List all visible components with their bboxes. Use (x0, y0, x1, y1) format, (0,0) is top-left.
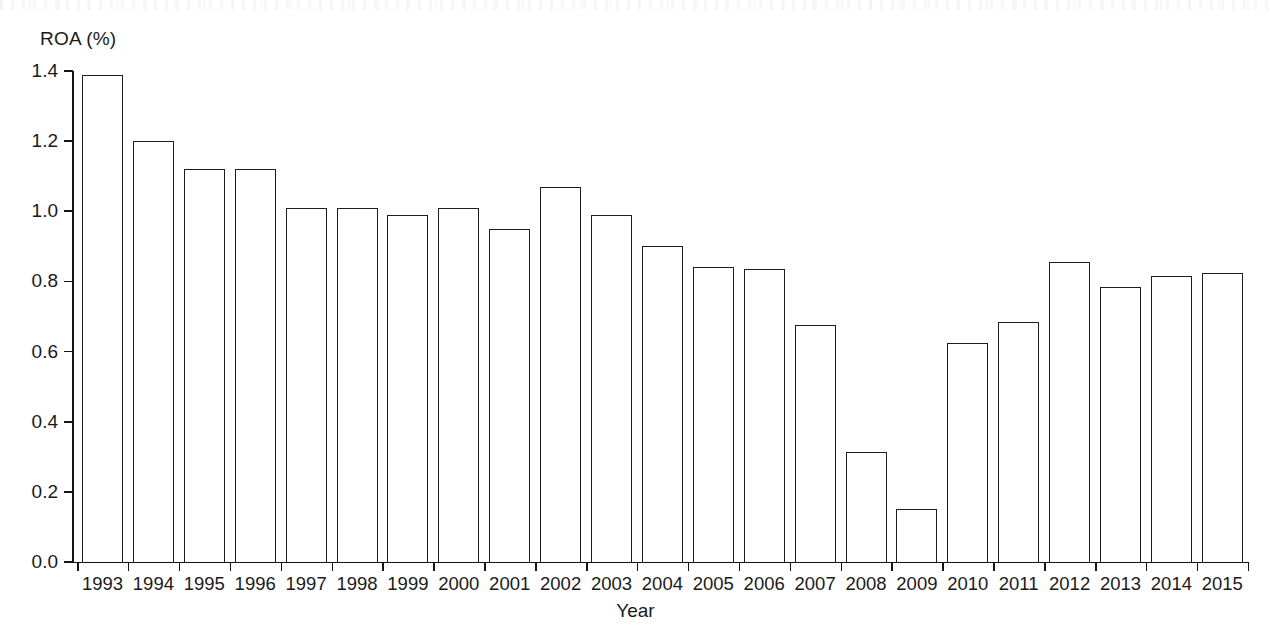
x-axis-tick-label: 2000 (438, 573, 479, 595)
x-axis-tick (230, 562, 232, 571)
x-axis-tick-label: 2013 (1100, 573, 1141, 595)
x-axis-tick (1044, 562, 1046, 571)
bar (896, 509, 937, 562)
x-axis-tick (993, 562, 995, 571)
x-axis-tick-label: 2004 (642, 573, 683, 595)
x-axis-tick (332, 562, 334, 571)
y-axis-tick-label: 0.8 (8, 270, 58, 292)
x-axis-title: Year (0, 600, 1271, 622)
x-axis-tick (535, 562, 537, 571)
x-axis-tick-label: 2011 (999, 573, 1039, 595)
y-axis-tick-label: 1.4 (8, 60, 58, 82)
bar (744, 269, 785, 562)
y-axis-tick (64, 351, 73, 353)
y-axis-tick-label: 1.2 (8, 130, 58, 152)
x-axis-tick (1197, 562, 1199, 571)
bar (489, 229, 530, 562)
x-axis-tick (1095, 562, 1097, 571)
x-axis-tick-label: 2003 (591, 573, 632, 595)
x-axis-tick-label: 2001 (489, 573, 530, 595)
y-axis-tick (64, 210, 73, 212)
y-axis-tick-label: 0.2 (8, 481, 58, 503)
x-axis-tick (281, 562, 283, 571)
x-axis-tick-label: 2008 (845, 573, 886, 595)
x-axis-tick (1248, 562, 1250, 571)
x-axis-tick-label: 2010 (947, 573, 988, 595)
y-axis-tick-label: 0.6 (8, 341, 58, 363)
x-axis-tick (382, 562, 384, 571)
x-axis-tick-label: 2014 (1151, 573, 1192, 595)
x-axis-tick (433, 562, 435, 571)
x-axis-tick (790, 562, 792, 571)
y-axis-tick (64, 140, 73, 142)
x-axis-tick-label: 1998 (336, 573, 377, 595)
x-axis-tick (77, 562, 79, 571)
bar (846, 452, 887, 562)
y-axis-tick-label: 0.0 (8, 551, 58, 573)
bar (1202, 273, 1243, 562)
x-axis-tick-label: 2015 (1202, 573, 1243, 595)
x-axis-tick (1146, 562, 1148, 571)
y-axis-tick-label: 0.4 (8, 411, 58, 433)
x-axis-tick (179, 562, 181, 571)
x-axis-tick-label: 2009 (896, 573, 937, 595)
bar (438, 208, 479, 562)
y-axis-tick (64, 281, 73, 283)
x-axis-tick-label: 1994 (133, 573, 174, 595)
x-axis-tick-label: 1999 (387, 573, 428, 595)
bar (998, 322, 1039, 562)
x-axis-tick (841, 562, 843, 571)
bar (337, 208, 378, 562)
x-axis-tick (739, 562, 741, 571)
y-axis-tick (64, 561, 73, 563)
bar (286, 208, 327, 562)
roa-bar-chart: ROA (%) 0.00.20.40.60.81.01.21.419931994… (0, 0, 1271, 642)
bar (1151, 276, 1192, 562)
y-axis-tick (64, 491, 73, 493)
bar (387, 215, 428, 562)
bar (1100, 287, 1141, 562)
x-axis-tick-label: 1996 (235, 573, 276, 595)
x-axis-tick-label: 2002 (540, 573, 581, 595)
x-axis-tick-label: 1993 (82, 573, 123, 595)
x-axis-tick (586, 562, 588, 571)
bar (693, 267, 734, 562)
bar (133, 141, 174, 562)
bar (184, 169, 225, 562)
x-axis-tick (484, 562, 486, 571)
x-axis-tick-label: 2005 (693, 573, 734, 595)
x-axis-tick (637, 562, 639, 571)
bar (82, 75, 123, 562)
bar (540, 187, 581, 562)
bar (795, 325, 836, 562)
bar (1049, 262, 1090, 562)
bar (235, 169, 276, 562)
x-axis-tick-label: 2012 (1049, 573, 1090, 595)
bar (947, 343, 988, 562)
x-axis-tick-label: 2006 (744, 573, 785, 595)
x-axis-tick (128, 562, 130, 571)
x-axis-tick-label: 1995 (184, 573, 225, 595)
y-axis-tick-label: 1.0 (8, 200, 58, 222)
bar (642, 246, 683, 562)
plot-area: 0.00.20.40.60.81.01.21.41993199419951996… (0, 0, 1271, 642)
x-axis-tick-label: 1997 (286, 573, 327, 595)
x-axis-tick (688, 562, 690, 571)
y-axis-tick (64, 70, 73, 72)
x-axis-tick-label: 2007 (795, 573, 836, 595)
x-axis-tick (942, 562, 944, 571)
x-axis-tick (891, 562, 893, 571)
y-axis-line (72, 71, 74, 563)
bar (591, 215, 632, 562)
y-axis-tick (64, 421, 73, 423)
